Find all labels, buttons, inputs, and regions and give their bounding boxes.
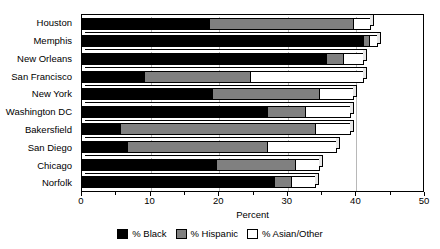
x-tick-label: 20 (213, 195, 224, 206)
x-tick-label: 50 (419, 195, 430, 206)
x-axis-tick-labels: 01020304050 (0, 195, 440, 207)
bar-row (82, 156, 423, 174)
y-axis-label: Norfolk (0, 174, 76, 192)
plot-area (81, 14, 424, 192)
y-axis-category-labels: HoustonMemphisNew OrleansSan FranciscoNe… (0, 14, 76, 192)
y-axis-label: Bakersfield (0, 121, 76, 139)
bar-row (82, 68, 423, 86)
bar-3d-side-face (363, 49, 367, 61)
bar-row (82, 33, 423, 51)
legend-item[interactable]: % Asian/Other (247, 228, 323, 239)
bar-segment-white[interactable] (353, 18, 371, 30)
legend-label: % Black (132, 228, 166, 239)
x-axis (81, 192, 424, 193)
bar-segment-black[interactable] (82, 176, 275, 188)
bar-3d-top-face (85, 67, 366, 70)
bar-3d-side-face (363, 67, 367, 79)
bar-rows (82, 15, 423, 191)
y-axis-label: Memphis (0, 32, 76, 50)
legend-swatch-white (247, 229, 258, 239)
y-axis-label: San Diego (0, 139, 76, 157)
legend-label: % Hispanic (191, 228, 239, 239)
x-tick-label: 0 (78, 195, 83, 206)
bar-segment-black[interactable] (82, 53, 327, 65)
bar-3d-side-face (350, 120, 354, 132)
stacked-bar[interactable] (82, 176, 316, 188)
stacked-bar[interactable] (82, 35, 378, 47)
bar-segment-black[interactable] (82, 159, 217, 171)
bar-3d-side-face (336, 137, 340, 149)
y-axis-label: Houston (0, 14, 76, 32)
legend-swatch-gray (176, 229, 187, 239)
bar-3d-top-face (85, 14, 373, 17)
bar-row (82, 50, 423, 68)
bar-3d-side-face (350, 102, 354, 114)
bar-segment-white[interactable] (295, 159, 320, 171)
bar-segment-black[interactable] (82, 18, 210, 30)
bar-row (82, 103, 423, 121)
bar-segment-gray[interactable] (120, 123, 317, 135)
stacked-bar[interactable] (82, 53, 364, 65)
legend-swatch-black (117, 229, 128, 239)
bar-segment-gray[interactable] (216, 159, 296, 171)
legend-label: % Asian/Other (262, 228, 323, 239)
chart-legend: % Black% Hispanic% Asian/Other (0, 228, 440, 239)
stacked-bar[interactable] (82, 106, 351, 118)
bar-3d-top-face (85, 102, 353, 105)
bar-segment-white[interactable] (267, 141, 337, 153)
chart-container: HoustonMemphisNew OrleansSan FranciscoNe… (0, 0, 440, 249)
stacked-bar[interactable] (82, 123, 351, 135)
chart-title (0, 0, 440, 2)
bar-segment-gray[interactable] (209, 18, 354, 30)
bar-segment-white[interactable] (315, 123, 350, 135)
stacked-bar[interactable] (82, 88, 354, 100)
legend-item[interactable]: % Hispanic (176, 228, 239, 239)
bar-3d-side-face (319, 155, 323, 167)
bar-3d-top-face (85, 173, 318, 176)
bar-segment-gray[interactable] (267, 106, 306, 118)
bar-row (82, 138, 423, 156)
bar-3d-top-face (85, 137, 339, 140)
y-axis-label: San Francisco (0, 67, 76, 85)
x-axis-title: Percent (81, 209, 424, 220)
x-tick-label: 40 (350, 195, 361, 206)
bar-segment-white[interactable] (343, 53, 365, 65)
bar-segment-gray[interactable] (144, 71, 251, 83)
bar-row (82, 85, 423, 103)
bar-3d-side-face (315, 173, 319, 185)
bar-segment-gray[interactable] (274, 176, 292, 188)
bar-segment-white[interactable] (250, 71, 364, 83)
bar-segment-white[interactable] (305, 106, 351, 118)
bar-segment-black[interactable] (82, 71, 145, 83)
bar-segment-gray[interactable] (212, 88, 319, 100)
bar-row (82, 121, 423, 139)
stacked-bar[interactable] (82, 159, 320, 171)
bar-3d-top-face (85, 85, 356, 88)
bar-3d-top-face (85, 120, 353, 123)
legend-item[interactable]: % Black (117, 228, 166, 239)
bar-segment-black[interactable] (82, 35, 364, 47)
stacked-bar[interactable] (82, 141, 337, 153)
bar-segment-black[interactable] (82, 106, 268, 118)
bar-3d-side-face (377, 32, 381, 44)
bar-segment-black[interactable] (82, 123, 121, 135)
y-axis-label: Chicago (0, 156, 76, 174)
bar-row (82, 173, 423, 191)
x-tick-label: 10 (144, 195, 155, 206)
bar-3d-side-face (353, 85, 357, 97)
bar-segment-white[interactable] (291, 176, 316, 188)
x-tick-label: 30 (282, 195, 293, 206)
bar-3d-side-face (370, 14, 374, 26)
bar-segment-black[interactable] (82, 88, 213, 100)
bar-segment-gray[interactable] (326, 53, 344, 65)
y-axis-label: Washington DC (0, 103, 76, 121)
bar-row (82, 15, 423, 33)
bar-segment-black[interactable] (82, 141, 128, 153)
y-axis-label: New Orleans (0, 50, 76, 68)
bar-segment-white[interactable] (319, 88, 354, 100)
y-axis-label: New York (0, 85, 76, 103)
stacked-bar[interactable] (82, 18, 371, 30)
bar-3d-top-face (85, 155, 322, 158)
stacked-bar[interactable] (82, 71, 364, 83)
bar-segment-gray[interactable] (127, 141, 269, 153)
